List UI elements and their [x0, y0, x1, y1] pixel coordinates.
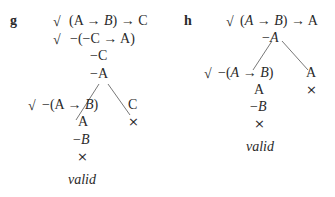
check-mark: √: [204, 66, 212, 82]
tree-h-line-1: (A → B) → A: [240, 13, 318, 29]
check-mark: √: [53, 14, 61, 30]
tree-h-left-line-1: −(A → B): [218, 65, 273, 81]
tree-h-verdict: valid: [246, 139, 274, 155]
tree-h-right-branch-line: [282, 41, 308, 70]
tree-g-left-line-2: A: [78, 114, 88, 130]
tree-g-line-1: (A → B) → C: [69, 13, 148, 29]
tree-g-verdict: valid: [68, 172, 96, 188]
tree-g-line-2: −(−C → A): [70, 31, 135, 47]
closed-branch-cross: ×: [77, 149, 88, 165]
tree-g-line-4: −A: [90, 66, 108, 82]
tree-h-left-line-3: −B: [250, 99, 266, 115]
tree-h-label: h: [184, 13, 192, 29]
tree-g-left-line-3: −B: [73, 132, 89, 148]
tree-g-right-line-1: C: [128, 97, 137, 113]
check-mark: √: [53, 32, 61, 48]
tree-g-left-line-1: −(A → B): [42, 97, 98, 113]
tree-h-line-2: −A: [262, 30, 278, 46]
closed-branch-cross: ×: [128, 114, 139, 130]
check-mark: √: [226, 14, 234, 30]
tree-g-line-3: −C: [90, 48, 107, 64]
closed-branch-cross: ×: [254, 116, 265, 132]
tree-h-left-line-2: A: [254, 82, 264, 98]
check-mark: √: [28, 98, 36, 114]
tree-g-right-branch-line: [108, 84, 130, 115]
closed-branch-cross: ×: [306, 82, 317, 98]
tree-h-right-line-1: A: [306, 65, 316, 81]
tree-g-label: g: [10, 13, 17, 29]
